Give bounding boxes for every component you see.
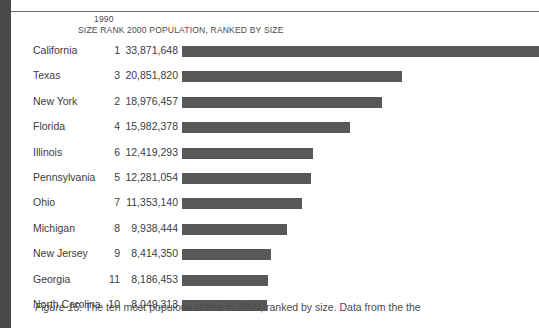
table-row: Illinois612,419,293 [0, 146, 539, 171]
population-bar [182, 122, 350, 133]
table-row: Pennsylvania512,281,054 [0, 171, 539, 196]
state-name: Georgia [33, 273, 70, 285]
population-bar [182, 71, 402, 82]
population-value: 8,414,350 [108, 247, 178, 259]
population-bar [182, 249, 271, 260]
state-name: Pennsylvania [33, 171, 95, 183]
bar-track [182, 122, 539, 133]
population-bar [182, 148, 313, 159]
state-name: New York [33, 95, 77, 107]
column-header-year: 1990 [94, 14, 114, 24]
population-bar [182, 224, 287, 235]
state-name: Texas [33, 69, 60, 81]
population-value: 9,938,444 [108, 222, 178, 234]
bar-track [182, 148, 539, 159]
population-value: 20,851,820 [108, 69, 178, 81]
population-bar [182, 173, 311, 184]
state-name: New Jersey [33, 247, 88, 259]
population-bar [182, 46, 539, 57]
table-row: Michigan89,938,444 [0, 222, 539, 247]
state-name: Michigan [33, 222, 75, 234]
state-name: California [33, 44, 77, 56]
state-name: Florida [33, 120, 65, 132]
table-row: Florida415,982,378 [0, 120, 539, 145]
table-row: Georgia118,186,453 [0, 273, 539, 298]
state-name: Ohio [33, 196, 55, 208]
figure-caption: Figure 15: The ten most populous states … [35, 301, 535, 314]
population-bar [182, 97, 382, 108]
population-value: 12,281,054 [108, 171, 178, 183]
population-value: 18,976,457 [108, 95, 178, 107]
bar-track [182, 173, 539, 184]
figure-label: Figure 15 [35, 301, 79, 313]
table-row: New York218,976,457 [0, 95, 539, 120]
population-bar [182, 198, 302, 209]
population-value: 15,982,378 [108, 120, 178, 132]
bar-chart-rows: California133,871,648Texas320,851,820New… [0, 44, 539, 323]
table-row: California133,871,648 [0, 44, 539, 69]
population-value: 12,419,293 [108, 146, 178, 158]
column-header-population: 2000 POPULATION, RANKED BY SIZE [127, 25, 284, 35]
table-row: Ohio711,353,140 [0, 196, 539, 221]
column-header-size-rank: SIZE RANK [78, 25, 125, 35]
figure-top-rule [11, 11, 539, 12]
population-value: 8,186,453 [108, 273, 178, 285]
bar-track [182, 46, 539, 57]
bar-track [182, 275, 539, 286]
bar-track [182, 249, 539, 260]
bar-track [182, 97, 539, 108]
bar-track [182, 198, 539, 209]
table-row: Texas320,851,820 [0, 69, 539, 94]
population-value: 11,353,140 [108, 196, 178, 208]
bar-track [182, 224, 539, 235]
bar-track [182, 71, 539, 82]
table-row: New Jersey98,414,350 [0, 247, 539, 272]
figure-caption-text: : The ten most populous states in 2000, … [79, 301, 420, 313]
state-name: Illinois [33, 146, 62, 158]
population-bar [182, 275, 268, 286]
population-value: 33,871,648 [108, 44, 178, 56]
